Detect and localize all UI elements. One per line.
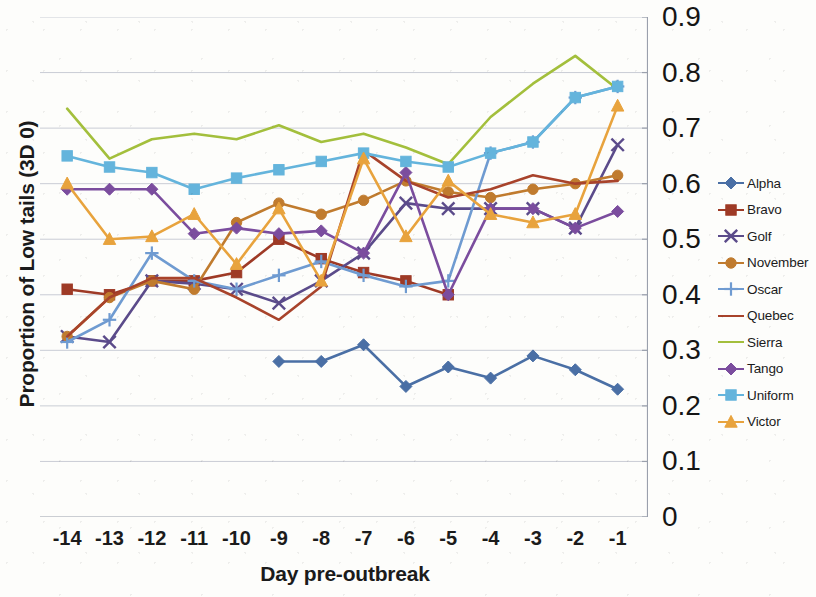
legend-marker-icon <box>718 415 744 429</box>
x-tick-label: -14 <box>53 527 82 550</box>
x-axis-title: Day pre-outbreak <box>40 562 650 586</box>
y-tick-label: 0 <box>662 503 678 531</box>
legend-label: November <box>747 255 808 270</box>
legend-item-quebec[interactable]: Quebec <box>718 303 814 330</box>
line-chart: Proportion of Low tails (3D 0) Day pre-o… <box>0 0 816 597</box>
series-victor <box>61 99 624 286</box>
legend-item-oscar[interactable]: Oscar <box>718 276 814 303</box>
chart-legend: AlphaBravoGolfNovemberOscarQuebecSierraT… <box>718 170 814 435</box>
y-tick-label: 0.2 <box>662 392 701 420</box>
x-tick-label: -13 <box>95 527 124 550</box>
x-tick-label: -6 <box>397 527 415 550</box>
legend-label: Sierra <box>747 335 782 350</box>
legend-marker-icon <box>718 203 744 217</box>
x-tick-label: -12 <box>137 527 166 550</box>
legend-marker-icon <box>718 362 744 376</box>
series-alpha <box>273 339 624 395</box>
legend-label: Tango <box>747 361 783 376</box>
legend-item-victor[interactable]: Victor <box>718 409 814 436</box>
legend-label: Oscar <box>747 282 783 297</box>
x-tick-label: -9 <box>270 527 288 550</box>
legend-marker-icon <box>718 388 744 402</box>
y-tick-label: 0.6 <box>662 170 701 198</box>
legend-marker-icon <box>718 335 744 349</box>
y-tick-label: 0.9 <box>662 3 701 31</box>
plot-svg <box>40 17 648 517</box>
legend-item-golf[interactable]: Golf <box>718 223 814 250</box>
series-bravo <box>62 234 453 300</box>
legend-label: Uniform <box>747 388 794 403</box>
legend-marker-icon <box>718 176 744 190</box>
legend-item-bravo[interactable]: Bravo <box>718 197 814 224</box>
legend-label: Golf <box>747 229 771 244</box>
legend-marker-icon <box>718 282 744 296</box>
legend-item-alpha[interactable]: Alpha <box>718 170 814 197</box>
x-tick-label: -8 <box>312 527 330 550</box>
x-tick-label: -7 <box>355 527 373 550</box>
legend-label: Quebec <box>747 308 794 323</box>
y-tick-label: 0.7 <box>662 114 701 142</box>
series-november <box>62 170 623 342</box>
x-tick-label: -2 <box>566 527 584 550</box>
legend-label: Bravo <box>747 202 782 217</box>
x-tick-label: -11 <box>180 527 208 550</box>
y-axis-title: Proportion of Low tails (3D 0) <box>15 49 39 479</box>
x-tick-label: -4 <box>482 527 500 550</box>
x-tick-label: -3 <box>524 527 542 550</box>
y-tick-label: 0.1 <box>662 447 701 475</box>
y-tick-label: 0.4 <box>662 281 701 309</box>
plot-area <box>40 17 648 517</box>
legend-item-november[interactable]: November <box>718 250 814 277</box>
legend-label: Victor <box>747 414 781 429</box>
legend-label: Alpha <box>747 176 781 191</box>
y-tick-label: 0.8 <box>662 59 701 87</box>
legend-item-tango[interactable]: Tango <box>718 356 814 383</box>
legend-marker-icon <box>718 229 744 243</box>
y-tick-label: 0.3 <box>662 336 701 364</box>
legend-item-sierra[interactable]: Sierra <box>718 329 814 356</box>
legend-marker-icon <box>718 309 744 323</box>
y-tick-label: 0.5 <box>662 225 701 253</box>
legend-marker-icon <box>718 256 744 270</box>
x-tick-label: -10 <box>222 527 251 550</box>
legend-item-uniform[interactable]: Uniform <box>718 382 814 409</box>
x-tick-label: -1 <box>609 527 627 550</box>
x-tick-label: -5 <box>439 527 457 550</box>
